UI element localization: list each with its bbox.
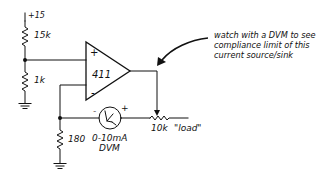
annotation-line-1: watch with a DVM to see — [214, 30, 316, 40]
resistor-180-label: 180 — [68, 134, 85, 144]
supply-terminal: +15 — [25, 11, 45, 21]
resistor-1k-label: 1k — [34, 75, 46, 85]
annotation-line-2: compliance limit of this — [214, 40, 310, 50]
resistor-load-10k: 10k "load" — [150, 116, 202, 133]
wiper-arrow-icon — [154, 110, 160, 116]
resistor-15k-label: 15k — [34, 30, 51, 40]
resistor-15k: 15k — [22, 21, 51, 60]
opamp-part-label: 411 — [92, 69, 111, 80]
annotation-note: watch with a DVM to see compliance limit… — [214, 30, 316, 60]
meter-positive-sign: + — [121, 103, 129, 113]
current-source-schematic: +15 15k 1k + - 411 180 — [0, 0, 336, 178]
meter-type-label: DVM — [99, 143, 120, 153]
load-name-label: "load" — [174, 123, 202, 133]
inverting-input-sign: - — [91, 87, 95, 98]
wire-feedback — [60, 85, 86, 118]
wire-output — [130, 71, 157, 112]
resistor-1k: 1k — [22, 60, 46, 103]
opamp-411: + - 411 — [86, 42, 130, 100]
dvm-meter: - + 0-10mA DVM — [92, 103, 129, 153]
annotation-arrow — [157, 38, 208, 66]
meter-negative-sign: - — [93, 106, 96, 116]
annotation-line-3: current source/sink — [214, 50, 294, 60]
supply-label: +15 — [28, 11, 45, 20]
meter-range-label: 0-10mA — [92, 133, 127, 143]
ground-symbol-1 — [19, 104, 31, 109]
resistor-180: 180 — [57, 118, 85, 163]
noninverting-input-sign: + — [90, 47, 98, 58]
ground-symbol-2 — [54, 164, 66, 169]
annotation-arrowhead-icon — [157, 57, 166, 66]
load-value-label: 10k — [151, 123, 168, 133]
